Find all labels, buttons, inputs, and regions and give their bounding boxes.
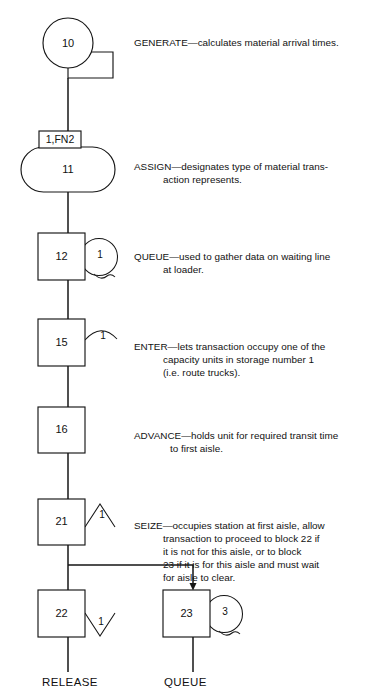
description-enter15-line3: (i.e. route trucks).	[163, 366, 240, 379]
description-queue12-line2: at loader.	[163, 263, 204, 276]
description-generate: GENERATE—calculates material arrival tim…	[134, 36, 339, 49]
gpss-block-diagram: 10 1,FN2 11 12 1 15 1 16	[0, 0, 377, 700]
block-assign-11[interactable]: 1,FN2 11	[21, 131, 115, 192]
enter-15-operand: 1	[100, 330, 106, 341]
description-advance16-line2: to first aisle.	[170, 442, 223, 455]
block-generate-10[interactable]: 10	[43, 18, 113, 78]
queue-23-operand: 3	[222, 606, 228, 617]
seize-21-operand: 1	[99, 509, 105, 520]
block-seize-21[interactable]: 21 1	[38, 499, 115, 545]
block-queue-12[interactable]: 12 1	[38, 233, 118, 280]
block-number-22: 22	[55, 607, 67, 619]
footer-label-queue: QUEUE	[164, 676, 207, 688]
assign-operand-text: 1,FN2	[46, 133, 75, 145]
description-seize21-line5: for aisle to clear.	[163, 571, 235, 584]
block-number-23: 23	[180, 607, 192, 619]
description-seize21-line4: 23 if it is for this aisle and must wait	[163, 558, 319, 571]
block-number-16: 16	[55, 423, 67, 435]
description-enter15-line1: ENTER—lets transaction occupy one of the	[134, 340, 325, 353]
block-release-22[interactable]: 22 1	[38, 590, 115, 637]
footer-label-release: RELEASE	[42, 676, 98, 688]
block-number-11: 11	[62, 163, 73, 175]
description-assign-line1: ASSIGN—designates type of material trans…	[134, 160, 328, 173]
block-advance-16[interactable]: 16	[38, 407, 85, 453]
description-enter15-line2: capacity units in storage number 1	[163, 353, 314, 366]
description-seize21-line1: SEIZE—occupies station at first aisle, a…	[134, 519, 325, 532]
description-seize21-line3: it is not for this aisle, or to block	[163, 545, 302, 558]
description-seize21-line2: transaction to proceed to block 22 if	[163, 532, 320, 545]
description-assign-line2: action represents.	[163, 173, 242, 186]
block-number-10: 10	[62, 37, 74, 49]
queue-12-operand: 1	[97, 249, 103, 260]
block-number-21: 21	[55, 515, 67, 527]
release-22-operand: 1	[98, 616, 104, 627]
block-queue-23[interactable]: 23 3	[163, 590, 243, 637]
block-enter-15[interactable]: 15 1	[38, 319, 117, 366]
block-number-15: 15	[55, 336, 67, 348]
description-queue12-line1: QUEUE—used to gather data on waiting lin…	[134, 250, 330, 263]
description-advance16-line1: ADVANCE—holds unit for required transit …	[134, 429, 338, 442]
block-number-12: 12	[55, 250, 67, 262]
